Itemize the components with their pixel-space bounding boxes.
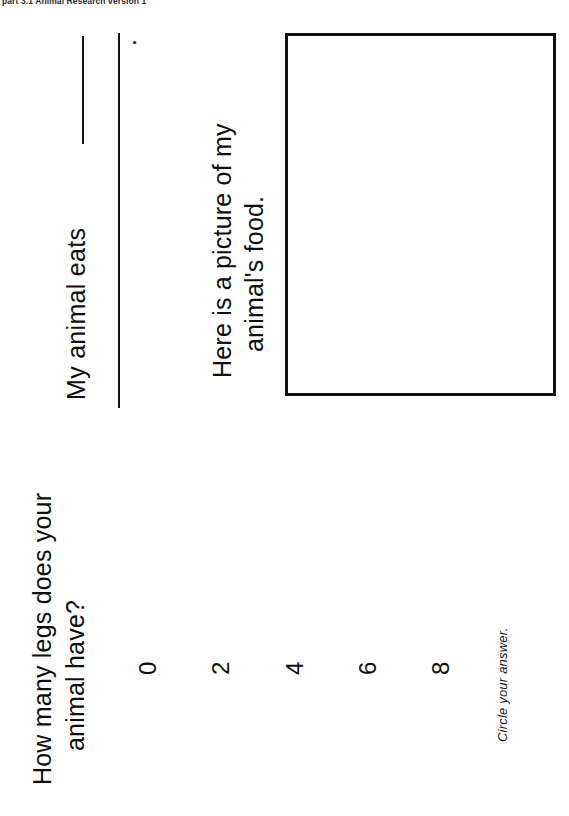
prompt-picture-line-1: Here is a picture of my: [208, 123, 236, 378]
question-how-many-legs: How many legs does youranimal have?: [26, 493, 91, 785]
legs-choice-2[interactable]: 2: [207, 662, 235, 675]
legs-choice-8[interactable]: 8: [427, 662, 455, 675]
question-legs-line-2: animal have?: [59, 493, 92, 785]
drawing-box[interactable]: [285, 33, 556, 396]
scan-header-text: part 3.1 Animal Research version 1: [2, 0, 146, 6]
prompt-picture-line-2: animal's food.: [238, 123, 270, 378]
legs-choice-4[interactable]: 4: [281, 662, 309, 675]
prompt-end-period: .: [113, 39, 142, 46]
answer-blank-rule-long[interactable]: [118, 33, 120, 408]
legs-choice-6[interactable]: 6: [354, 662, 382, 675]
prompt-picture-of-food: Here is a picture of myanimal's food.: [206, 123, 270, 378]
question-legs-line-1: How many legs does your: [28, 493, 56, 785]
scan-header: part 3.1 Animal Research version 1: [0, 0, 569, 14]
prompt-my-animal-eats: My animal eats: [62, 228, 91, 400]
worksheet-page: part 3.1 Animal Research version 1 My an…: [0, 0, 569, 816]
answer-blank-rule-short[interactable]: [82, 36, 84, 144]
legs-choice-0[interactable]: 0: [134, 662, 162, 675]
instruction-circle-your-answer: Circle your answer.: [495, 627, 510, 742]
